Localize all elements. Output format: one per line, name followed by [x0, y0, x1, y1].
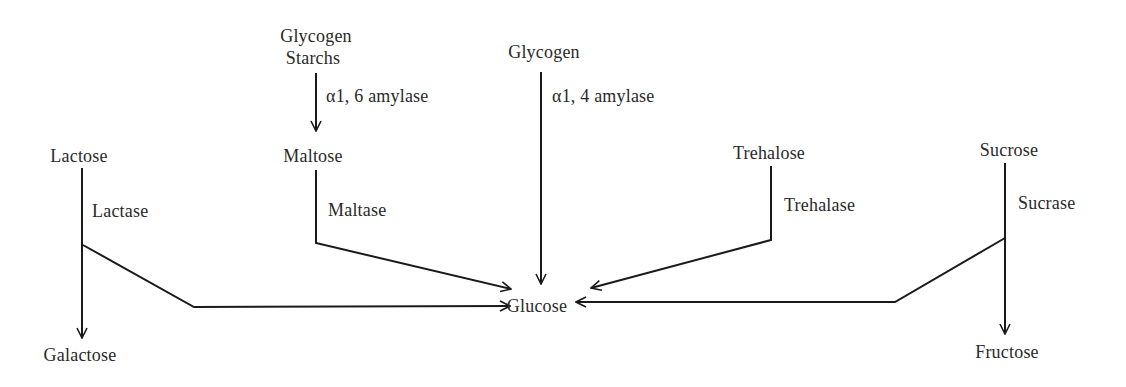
- node-glycogen-starch-line1: Glycogen: [280, 26, 352, 46]
- enzyme-alpha16-amylase: α1, 6 amylase: [326, 86, 429, 106]
- enzyme-alpha14-amylase: α1, 4 amylase: [552, 86, 655, 106]
- node-glycogen: Glycogen: [508, 42, 580, 62]
- enzyme-maltase: Maltase: [328, 200, 386, 220]
- edge-trehalose-to-glucose: [591, 166, 771, 288]
- node-lactose: Lactose: [50, 146, 107, 166]
- node-sucrose: Sucrose: [980, 140, 1038, 160]
- node-trehalose: Trehalose: [733, 143, 805, 163]
- node-glycogen-starch-line2: Starchs: [286, 48, 340, 68]
- edge-maltose-to-glucose: [316, 170, 511, 289]
- enzyme-sucrase: Sucrase: [1018, 193, 1075, 213]
- node-galactose: Galactose: [44, 345, 117, 365]
- node-glucose: Glucose: [507, 296, 567, 316]
- node-maltose: Maltose: [283, 146, 342, 166]
- node-fructose: Fructose: [975, 342, 1039, 362]
- edge-lactose-to-glucose: [83, 245, 510, 307]
- edge-sucrose-to-glucose: [576, 238, 1005, 302]
- enzyme-trehalase: Trehalase: [784, 195, 855, 215]
- enzyme-lactase: Lactase: [92, 201, 148, 221]
